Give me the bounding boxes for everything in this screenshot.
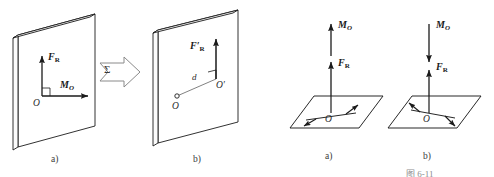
plate-a-left-edge [13, 35, 18, 150]
plate-b-distance-label: d [192, 73, 197, 82]
figure-svg [0, 0, 494, 177]
plane-b-group [388, 24, 481, 128]
figure-number-caption: 图 6-11 [406, 170, 433, 177]
plane-b-face [388, 96, 481, 128]
plate-a-force-label: FR [48, 52, 60, 64]
plate-a-moment-label: MO [60, 80, 74, 92]
plane-b-force-label: FR [436, 62, 448, 74]
plate-b-left-edge [153, 30, 158, 146]
plate-a-origin-label: O [33, 99, 40, 109]
plate-b-origin-label: O [172, 102, 179, 112]
plane-a-caption: a) [325, 152, 332, 162]
plate-b-point-o [175, 94, 179, 98]
plate-b-point-o-prime-label: O′ [216, 81, 225, 91]
plane-sigma-label: Σ [104, 64, 110, 75]
plane-b-caption: b) [423, 152, 431, 162]
plane-a-force-label: FR [338, 58, 350, 70]
plane-b-moment-label: MO [436, 20, 450, 32]
plane-b-origin-label: O [423, 115, 430, 125]
plane-a-origin-label: O [325, 115, 332, 125]
plate-b-caption: b) [193, 155, 201, 165]
plate-a-caption: a) [51, 155, 58, 165]
plane-a-group [290, 24, 383, 128]
plate-a-group [13, 14, 95, 150]
plate-b-force-label: F′R [190, 41, 205, 53]
plane-a-face [290, 96, 383, 128]
mechanics-figure: FR MO O Σ a) F′R d O′ O b) MO FR O a) MO… [0, 0, 494, 177]
plate-b-face [158, 10, 238, 143]
plane-a-moment-label: MO [338, 20, 352, 32]
